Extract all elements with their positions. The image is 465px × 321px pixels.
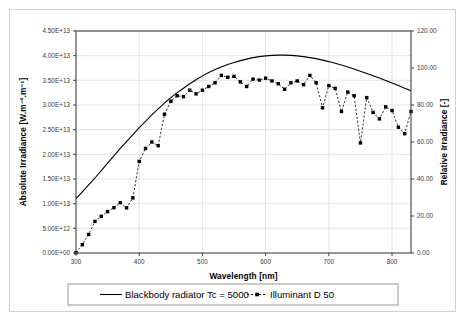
y2-axis-tick-label: 20.00 bbox=[417, 212, 433, 219]
chart-figure: 0.00E+005.00E+121.00E+131.50E+132.00E+13… bbox=[0, 0, 465, 321]
series-marker-illuminant-d50 bbox=[201, 89, 204, 92]
series-marker-illuminant-d50 bbox=[169, 100, 172, 103]
y-axis-tick-label: 3.50E+13 bbox=[42, 77, 70, 84]
series-marker-illuminant-d50 bbox=[308, 74, 311, 77]
series-marker-illuminant-d50 bbox=[296, 79, 299, 82]
y-axis-tick-label: 1.00E+13 bbox=[42, 200, 70, 207]
series-marker-illuminant-d50 bbox=[163, 113, 166, 116]
y2-axis-tick-label: 80.00 bbox=[417, 101, 433, 108]
x-axis-title: Wavelength [nm] bbox=[209, 271, 277, 281]
series-marker-illuminant-d50 bbox=[156, 144, 159, 147]
series-marker-illuminant-d50 bbox=[93, 220, 96, 223]
series-marker-illuminant-d50 bbox=[239, 80, 242, 83]
series-marker-illuminant-d50 bbox=[150, 140, 153, 143]
series-marker-illuminant-d50 bbox=[384, 105, 387, 108]
series-marker-illuminant-d50 bbox=[207, 85, 210, 88]
chart-canvas: 0.00E+005.00E+121.00E+131.50E+132.00E+13… bbox=[0, 0, 465, 321]
series-marker-illuminant-d50 bbox=[403, 132, 406, 135]
y-axis-tick-label: 2.00E+13 bbox=[42, 151, 70, 158]
x-axis-tick-label: 800 bbox=[387, 258, 398, 265]
series-marker-illuminant-d50 bbox=[340, 110, 343, 113]
series-marker-illuminant-d50 bbox=[245, 85, 248, 88]
series-marker-illuminant-d50 bbox=[365, 96, 368, 99]
series-marker-illuminant-d50 bbox=[314, 81, 317, 84]
series-marker-illuminant-d50 bbox=[258, 78, 261, 81]
y2-axis-tick-label: 60.00 bbox=[417, 138, 433, 145]
series-marker-illuminant-d50 bbox=[333, 87, 336, 90]
y2-axis-tick-label: 100.00 bbox=[417, 64, 437, 71]
series-marker-illuminant-d50 bbox=[194, 92, 197, 95]
y-axis-tick-label: 4.00E+13 bbox=[42, 52, 70, 59]
series-marker-illuminant-d50 bbox=[390, 109, 393, 112]
series-marker-illuminant-d50 bbox=[188, 89, 191, 92]
series-marker-illuminant-d50 bbox=[112, 206, 115, 209]
series-marker-illuminant-d50 bbox=[144, 147, 147, 150]
series-marker-illuminant-d50 bbox=[397, 126, 400, 129]
y2-axis-tick-label: 120.00 bbox=[417, 27, 437, 34]
series-marker-illuminant-d50 bbox=[175, 94, 178, 97]
y-axis-tick-label: 1.50E+13 bbox=[42, 175, 70, 182]
series-marker-illuminant-d50 bbox=[87, 233, 90, 236]
series-marker-illuminant-d50 bbox=[81, 243, 84, 246]
y2-axis-tick-label: 40.00 bbox=[417, 175, 433, 182]
series-marker-illuminant-d50 bbox=[327, 84, 330, 87]
series-marker-illuminant-d50 bbox=[226, 76, 229, 79]
y2-axis-tick-label: 0.00 bbox=[417, 249, 430, 256]
series-marker-illuminant-d50 bbox=[289, 81, 292, 84]
series-marker-illuminant-d50 bbox=[106, 210, 109, 213]
series-marker-illuminant-d50 bbox=[232, 75, 235, 78]
series-marker-illuminant-d50 bbox=[302, 83, 305, 86]
y-axis-tick-label: 2.50E+13 bbox=[42, 126, 70, 133]
legend-marker-illuminant-d50 bbox=[255, 293, 259, 297]
series-marker-illuminant-d50 bbox=[277, 82, 280, 85]
series-marker-illuminant-d50 bbox=[220, 74, 223, 77]
y-axis-tick-label: 3.00E+13 bbox=[42, 101, 70, 108]
series-marker-illuminant-d50 bbox=[346, 90, 349, 93]
series-marker-illuminant-d50 bbox=[359, 141, 362, 144]
series-marker-illuminant-d50 bbox=[125, 206, 128, 209]
x-axis-tick-label: 500 bbox=[197, 258, 208, 265]
series-marker-illuminant-d50 bbox=[371, 111, 374, 114]
series-marker-illuminant-d50 bbox=[100, 215, 103, 218]
series-marker-illuminant-d50 bbox=[270, 79, 273, 82]
y-axis-tick-label: 4.50E+13 bbox=[42, 27, 70, 34]
series-marker-illuminant-d50 bbox=[131, 196, 134, 199]
series-marker-illuminant-d50 bbox=[352, 94, 355, 97]
series-marker-illuminant-d50 bbox=[264, 76, 267, 79]
y-axis-tick-label: 5.00E+12 bbox=[42, 225, 70, 232]
series-marker-illuminant-d50 bbox=[138, 160, 141, 163]
series-marker-illuminant-d50 bbox=[251, 77, 254, 80]
legend-label-blackbody: Blackbody radiator Tc = 5000 bbox=[125, 289, 249, 300]
series-marker-illuminant-d50 bbox=[283, 88, 286, 91]
y2-axis-title: Relative Irradiance [-] bbox=[439, 99, 449, 186]
series-marker-illuminant-d50 bbox=[119, 201, 122, 204]
x-axis-tick-label: 400 bbox=[134, 258, 145, 265]
series-marker-illuminant-d50 bbox=[182, 95, 185, 98]
y-axis-title: Absolute Irradiance [W.m⁻².m⁻¹] bbox=[18, 78, 28, 207]
y-axis-tick-label: 0.00E+00 bbox=[42, 249, 70, 256]
series-marker-illuminant-d50 bbox=[378, 117, 381, 120]
x-axis-tick-label: 600 bbox=[260, 258, 271, 265]
series-marker-illuminant-d50 bbox=[213, 81, 216, 84]
series-marker-illuminant-d50 bbox=[321, 106, 324, 109]
legend-label-illuminant-d50: Illuminant D 50 bbox=[270, 289, 334, 300]
x-axis-tick-label: 300 bbox=[71, 258, 82, 265]
x-axis-tick-label: 700 bbox=[323, 258, 334, 265]
